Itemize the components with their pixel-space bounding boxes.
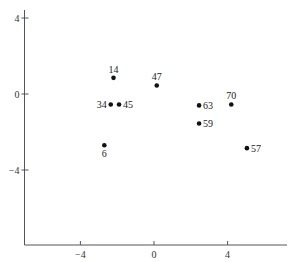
- point-label: 47: [152, 71, 162, 82]
- y-axis-ticks: 40−4: [9, 13, 29, 176]
- point-marker: [229, 102, 234, 107]
- point-label: 6: [102, 148, 107, 159]
- point-marker: [111, 76, 116, 81]
- point-marker: [108, 102, 113, 107]
- point-label: 34: [97, 99, 107, 110]
- point-marker: [245, 146, 250, 151]
- data-point: 63: [197, 100, 213, 111]
- point-marker: [197, 121, 202, 126]
- point-label: 59: [203, 118, 213, 129]
- point-marker: [154, 83, 159, 88]
- data-point: 59: [197, 118, 213, 129]
- data-point: 57: [245, 143, 261, 154]
- point-label: 70: [226, 90, 236, 101]
- data-point: 45: [117, 99, 133, 110]
- scatter-chart: −404 40−4 14344547637059657: [0, 0, 292, 262]
- point-label: 57: [251, 143, 261, 154]
- y-tick-label: 0: [15, 89, 20, 100]
- data-point: 34: [97, 99, 113, 110]
- point-label: 14: [109, 64, 119, 75]
- point-label: 63: [203, 100, 213, 111]
- data-point: 47: [152, 71, 162, 87]
- y-tick-label: −4: [9, 165, 20, 176]
- x-tick-label: 4: [225, 249, 230, 260]
- data-point: 70: [226, 90, 236, 106]
- point-label: 45: [123, 99, 133, 110]
- y-tick-label: 4: [15, 13, 20, 24]
- data-point: 14: [109, 64, 119, 80]
- data-points: 14344547637059657: [97, 64, 261, 159]
- axes: [25, 10, 288, 245]
- x-tick-label: 0: [152, 249, 157, 260]
- data-point: 6: [102, 143, 107, 159]
- point-marker: [197, 103, 202, 108]
- point-marker: [117, 102, 122, 107]
- x-tick-label: −4: [75, 249, 86, 260]
- point-marker: [102, 143, 107, 148]
- x-axis-ticks: −404: [75, 241, 230, 260]
